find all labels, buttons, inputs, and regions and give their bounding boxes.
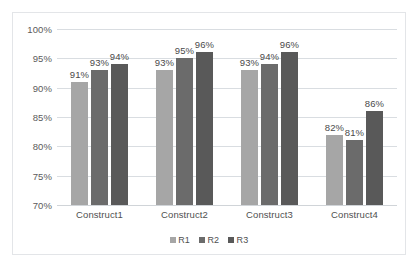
bar-slot: 82%: [326, 29, 343, 205]
bar-slot: 93%: [241, 29, 258, 205]
bar-r2[interactable]: [346, 140, 363, 205]
bar-value-label: 93%: [240, 57, 259, 68]
bar-group: 91%93%94%: [57, 29, 142, 205]
bar-group: 93%95%96%: [142, 29, 227, 205]
x-axis-category-label: Construct4: [312, 209, 397, 229]
legend-label: R3: [237, 235, 249, 245]
bar-slot: 93%: [91, 29, 108, 205]
bar-r3[interactable]: [366, 111, 383, 205]
bar-value-label: 94%: [260, 51, 279, 62]
legend-label: R2: [207, 235, 219, 245]
bar-value-label: 93%: [90, 57, 109, 68]
y-axis-tick-label: 90%: [33, 82, 52, 93]
bar-value-label: 86%: [365, 98, 384, 109]
bar-slot: 96%: [196, 29, 213, 205]
chart-container: 100%95%90%85%80%75%70% 91%93%94%93%95%96…: [12, 12, 406, 255]
bar-slot: 96%: [281, 29, 298, 205]
bar-slot: 94%: [111, 29, 128, 205]
axis-baseline: [57, 205, 397, 206]
bar-value-label: 95%: [175, 45, 194, 56]
x-axis-category-label: Construct2: [142, 209, 227, 229]
legend-item-r2[interactable]: R2: [199, 235, 219, 245]
bar-value-label: 96%: [280, 39, 299, 50]
chart-legend: R1R2R3: [13, 235, 405, 245]
gridlines-and-bars: 91%93%94%93%95%96%93%94%96%82%81%86%: [57, 29, 397, 205]
bar-r2[interactable]: [176, 58, 193, 205]
bar-r1[interactable]: [71, 82, 88, 205]
bar-value-label: 93%: [155, 57, 174, 68]
y-axis-tick-label: 70%: [33, 200, 52, 211]
bar-value-label: 94%: [110, 51, 129, 62]
x-axis-category-label: Construct1: [57, 209, 142, 229]
y-axis-tick-label: 95%: [33, 53, 52, 64]
bar-r1[interactable]: [156, 70, 173, 205]
legend-item-r3[interactable]: R3: [228, 235, 248, 245]
bar-r3[interactable]: [196, 52, 213, 205]
bar-r3[interactable]: [281, 52, 298, 205]
bar-r1[interactable]: [241, 70, 258, 205]
bar-slot: 93%: [156, 29, 173, 205]
bar-r2[interactable]: [261, 64, 278, 205]
y-axis-tick-label: 85%: [33, 112, 52, 123]
legend-label: R1: [178, 235, 190, 245]
y-axis-tick-labels: 100%95%90%85%80%75%70%: [13, 29, 55, 205]
plot-area: 100%95%90%85%80%75%70% 91%93%94%93%95%96…: [13, 13, 405, 254]
bar-group: 93%94%96%: [227, 29, 312, 205]
legend-item-r1[interactable]: R1: [170, 235, 190, 245]
y-axis-tick-label: 80%: [33, 141, 52, 152]
bar-slot: 86%: [366, 29, 383, 205]
bar-value-label: 91%: [70, 69, 89, 80]
legend-swatch-icon: [199, 237, 205, 243]
bar-groups: 91%93%94%93%95%96%93%94%96%82%81%86%: [57, 29, 397, 205]
legend-swatch-icon: [170, 237, 176, 243]
bar-r2[interactable]: [91, 70, 108, 205]
bar-value-label: 96%: [195, 39, 214, 50]
bar-value-label: 82%: [325, 122, 344, 133]
bar-value-label: 81%: [345, 127, 364, 138]
bar-slot: 81%: [346, 29, 363, 205]
y-axis-tick-label: 100%: [27, 24, 52, 35]
x-axis-category-labels: Construct1Construct2Construct3Construct4: [57, 209, 397, 229]
bar-group: 82%81%86%: [312, 29, 397, 205]
bar-slot: 94%: [261, 29, 278, 205]
bar-slot: 91%: [71, 29, 88, 205]
legend-swatch-icon: [228, 237, 234, 243]
bar-r3[interactable]: [111, 64, 128, 205]
x-axis-category-label: Construct3: [227, 209, 312, 229]
bar-r1[interactable]: [326, 135, 343, 205]
bar-slot: 95%: [176, 29, 193, 205]
y-axis-tick-label: 75%: [33, 170, 52, 181]
